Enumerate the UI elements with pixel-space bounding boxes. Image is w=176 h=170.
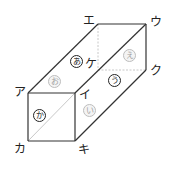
face-label-e: え bbox=[123, 49, 136, 62]
rectangular-prism-diagram: ア イ ウ エ カ キ ク ケ あ い う え お か bbox=[0, 0, 176, 170]
face-label-o: お bbox=[48, 75, 61, 88]
face-label-ka: か bbox=[33, 109, 46, 122]
vertex-label-i: イ bbox=[79, 89, 91, 101]
vertex-label-u: ウ bbox=[150, 16, 162, 28]
vertex-label-ka: カ bbox=[14, 143, 26, 155]
vertex-label-a: ア bbox=[14, 86, 26, 98]
vertex-label-e: エ bbox=[83, 15, 95, 27]
face-label-a: あ bbox=[70, 55, 83, 68]
vertex-label-ki: キ bbox=[78, 144, 90, 156]
vertex-label-ku: ク bbox=[150, 65, 162, 77]
face-label-u: う bbox=[108, 74, 121, 87]
vertex-label-ke: ケ bbox=[85, 58, 97, 70]
face-label-i: い bbox=[83, 104, 96, 117]
